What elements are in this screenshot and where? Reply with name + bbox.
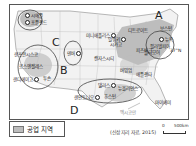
city-new-orleans: 뉴올리언스 [118,87,138,92]
city-dot-icon [159,37,164,42]
city-dot-icon [95,95,100,100]
city-houston: 휴스턴 [104,95,116,100]
city-san-diego: 샌디에이고 [13,77,40,82]
city-new-york: 뉴욕 [158,37,173,42]
city-san-francisco: 샌프란시스코 [14,53,38,58]
city-boston: 보스턴 [160,27,172,32]
city-atlanta: 애틀랜타 [136,73,152,78]
city-detroit: 디트로이트 [128,29,148,34]
city-tucson: 투손 [43,77,51,82]
scale-zero: 0 [162,123,165,128]
region-b-label: B [60,65,68,76]
city-portland: 포틀랜드 [24,20,47,25]
city-miami: 마이애미 [155,101,171,106]
city-los-angeles: 로스앤젤레스 [19,65,43,70]
city-baltimore: 볼티모어 [144,51,160,56]
city-denver: 덴버 [67,51,82,56]
legend: 공업 지역 [9,121,65,137]
city-dot-icon [76,51,81,56]
city-dallas: 댈러스 [98,83,117,88]
city-dot-icon [25,20,30,25]
legend-label: 공업 지역 [27,124,53,134]
map-frame: A B C D 시애틀 포틀랜드 미니애폴리스 덴버 샌프란시스코 로스앤젤레스… [9,4,189,120]
city-chicago: 시카고 [110,43,122,48]
industrial-area-swatch [13,126,24,133]
region-d-label: D [70,105,78,116]
city-dot-icon [34,77,39,82]
scale-bar-line [163,131,186,134]
city-dot-icon [111,83,116,88]
scale-max: 500km [174,123,189,128]
city-philadelphia: 필라델피아 [150,45,170,50]
scale-bar: 0 500km [162,123,186,135]
city-seattle: 시애틀 [24,13,43,18]
source-citation: (신상 지리 자료, 2015) [110,128,156,135]
city-birmingham: 버밍엄 [120,69,132,74]
region-a-label: A [155,10,163,21]
city-san-antonio: 샌안토니오 [74,95,101,100]
city-dot-icon [25,13,30,18]
gulf-of-mexico-label: 멕시코만 [120,109,136,115]
city-kansas-city: 캔자스시티 [94,57,114,62]
latitude-label: 37°N [170,49,181,54]
region-c-label: C [52,37,60,48]
